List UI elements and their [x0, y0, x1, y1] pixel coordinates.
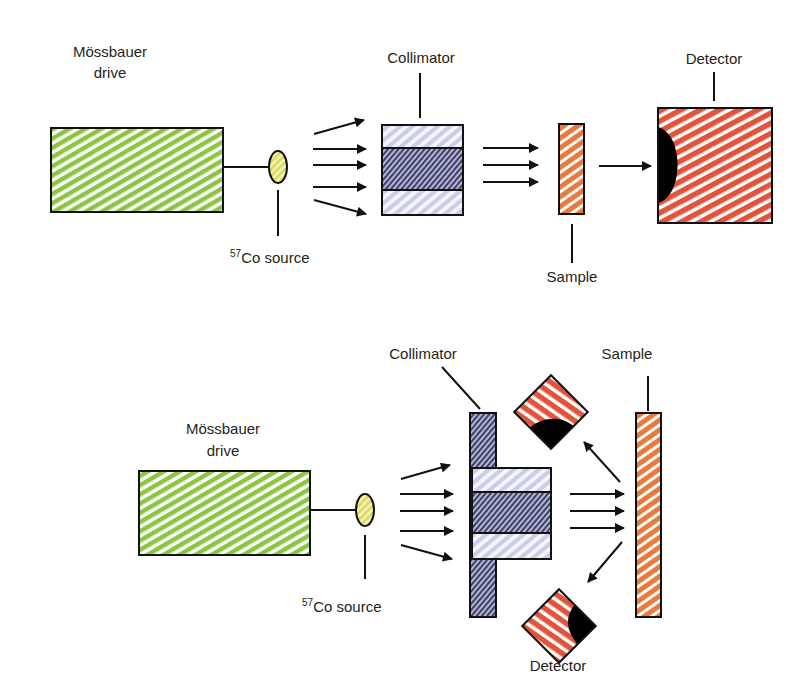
sample-slab: [559, 124, 584, 214]
mossbauer-drive: Mössbauer drive: [51, 43, 269, 212]
mossbauer-diagram: Mössbauer drive 57Co source Collimator: [0, 0, 808, 696]
sample: Sample: [547, 124, 598, 285]
source-label: 57Co source: [230, 248, 310, 266]
arrow-icon: [314, 200, 366, 214]
collimator: Collimator: [382, 49, 463, 215]
arrow-icon: [314, 120, 364, 134]
drive-box: [51, 128, 223, 212]
arrow-icon: [401, 545, 452, 559]
gamma-rays-to-sample: [483, 148, 538, 182]
drive-label-line1: Mössbauer: [186, 420, 260, 437]
sample-slab: [636, 413, 661, 617]
mossbauer-drive-2: Mössbauer drive: [139, 420, 356, 555]
gamma-rays-to-sample-2: [570, 494, 624, 528]
co57-source: 57Co source: [230, 151, 310, 266]
collimator-label: Collimator: [387, 49, 455, 66]
sample-label: Sample: [547, 268, 598, 285]
arrow-icon: [401, 465, 450, 479]
collimator-2: Collimator: [389, 345, 551, 617]
detector-label: Detector: [530, 657, 587, 674]
backscatter-geometry: Mössbauer drive 57Co source Collimator: [139, 345, 661, 674]
detector-upper: [514, 375, 588, 449]
collimator-leader: [442, 367, 480, 409]
source-ellipse: [269, 151, 287, 183]
scattered-arrow-up-icon: [584, 442, 620, 482]
gamma-rays-to-collimator-2: [400, 465, 453, 559]
detector-label: Detector: [686, 50, 743, 67]
drive-box: [139, 471, 310, 555]
source-ellipse: [356, 494, 374, 526]
collimator-core: [382, 148, 463, 190]
gamma-rays-to-collimator: [313, 120, 366, 214]
transmission-geometry: Mössbauer drive 57Co source Collimator: [51, 43, 772, 285]
detector-lower: [522, 589, 596, 663]
drive-label-line1: Mössbauer: [73, 43, 147, 60]
sample-2: Sample: [602, 345, 661, 617]
collimator-label: Collimator: [389, 345, 457, 362]
scattered-arrow-down-icon: [588, 542, 622, 582]
drive-label-line2: drive: [94, 64, 127, 81]
collimator-core: [472, 492, 551, 533]
co57-source-2: 57Co source: [302, 494, 382, 615]
drive-label-line2: drive: [207, 442, 240, 459]
source-label: 57Co source: [302, 597, 382, 615]
sample-label: Sample: [602, 345, 653, 362]
detector: Detector: [658, 50, 772, 223]
